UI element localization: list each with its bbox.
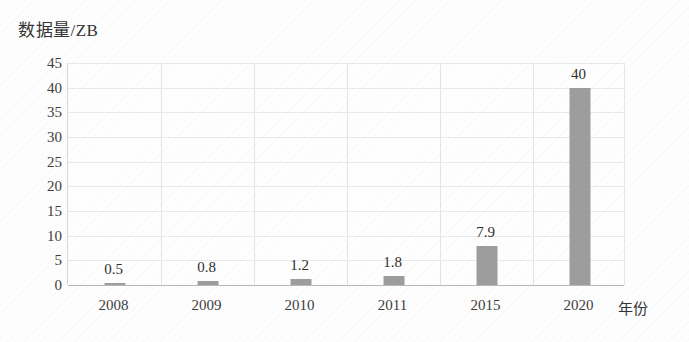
- gridline-vertical: [440, 63, 441, 285]
- x-axis-tick-label: 2009: [192, 297, 222, 314]
- y-axis-tick-labels: 454035302520151050: [18, 63, 62, 285]
- bar: [104, 283, 125, 285]
- x-axis-tick-label: 2008: [99, 297, 129, 314]
- bar-value-label: 7.9: [476, 224, 495, 241]
- y-axis-tick-label: 5: [22, 252, 62, 269]
- y-axis-tick-label: 45: [22, 55, 62, 72]
- y-axis-tick-label: 15: [22, 203, 62, 220]
- bar: [383, 276, 404, 285]
- bar-value-label: 0.5: [104, 261, 123, 278]
- gridline-vertical: [254, 63, 255, 285]
- gridline-horizontal: [68, 211, 624, 212]
- bar-value-label: 40: [571, 66, 586, 83]
- gridline-vertical: [161, 63, 162, 285]
- y-axis-tick-label: 30: [22, 129, 62, 146]
- chart-figure: 数据量/ZB 454035302520151050 20082009201020…: [0, 0, 689, 342]
- y-axis-tick-label: 40: [22, 79, 62, 96]
- y-axis-tick-label: 20: [22, 178, 62, 195]
- bar-value-label: 1.2: [290, 257, 309, 274]
- bar: [476, 246, 497, 285]
- y-axis-tick-label: 10: [22, 227, 62, 244]
- gridline-horizontal: [68, 285, 624, 286]
- x-axis-tick-label: 2011: [378, 297, 407, 314]
- y-axis-tick-label: 25: [22, 153, 62, 170]
- gridline-vertical: [347, 63, 348, 285]
- x-axis-tick-label: 2010: [285, 297, 315, 314]
- bar: [569, 88, 590, 285]
- x-axis-tick-label: 2015: [471, 297, 501, 314]
- bar: [290, 279, 311, 285]
- x-axis-tick-label: 2020: [564, 297, 594, 314]
- gridline-horizontal: [68, 236, 624, 237]
- y-axis-title: 数据量/ZB: [18, 16, 98, 41]
- y-axis-tick-label: 0: [22, 277, 62, 294]
- gridline-horizontal: [68, 88, 624, 89]
- bar: [197, 281, 218, 285]
- x-axis-title: 年份: [618, 297, 648, 318]
- gridline-horizontal: [68, 260, 624, 261]
- gridline-horizontal: [68, 63, 624, 64]
- gridline-horizontal: [68, 186, 624, 187]
- plot-area: [67, 63, 625, 285]
- bar-value-label: 0.8: [197, 259, 216, 276]
- y-axis-tick-label: 35: [22, 104, 62, 121]
- gridline-horizontal: [68, 162, 624, 163]
- bar-value-label: 1.8: [383, 254, 402, 271]
- gridline-horizontal: [68, 137, 624, 138]
- gridline-vertical: [533, 63, 534, 285]
- gridline-horizontal: [68, 112, 624, 113]
